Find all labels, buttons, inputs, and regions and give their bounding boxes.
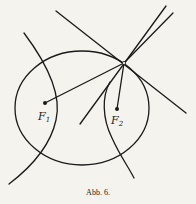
line-p-f1 — [45, 63, 124, 103]
tangent-line-1 — [56, 11, 186, 113]
line-p-f2 — [117, 63, 124, 109]
focus-f1-dot — [43, 101, 47, 105]
figure: F1 F2 Abb. 6. — [0, 0, 196, 204]
line-top-right-1 — [80, 6, 166, 124]
focus-f2-dot — [115, 107, 119, 111]
focus-f1-label: F1 — [37, 110, 50, 124]
point-p — [122, 61, 125, 64]
focus-f2-label: F2 — [110, 114, 124, 128]
line-top-right-2 — [124, 13, 173, 63]
hyperbola-branch-left — [9, 33, 57, 184]
geometry-diagram: F1 F2 — [0, 0, 196, 204]
figure-caption: Abb. 6. — [0, 188, 196, 197]
